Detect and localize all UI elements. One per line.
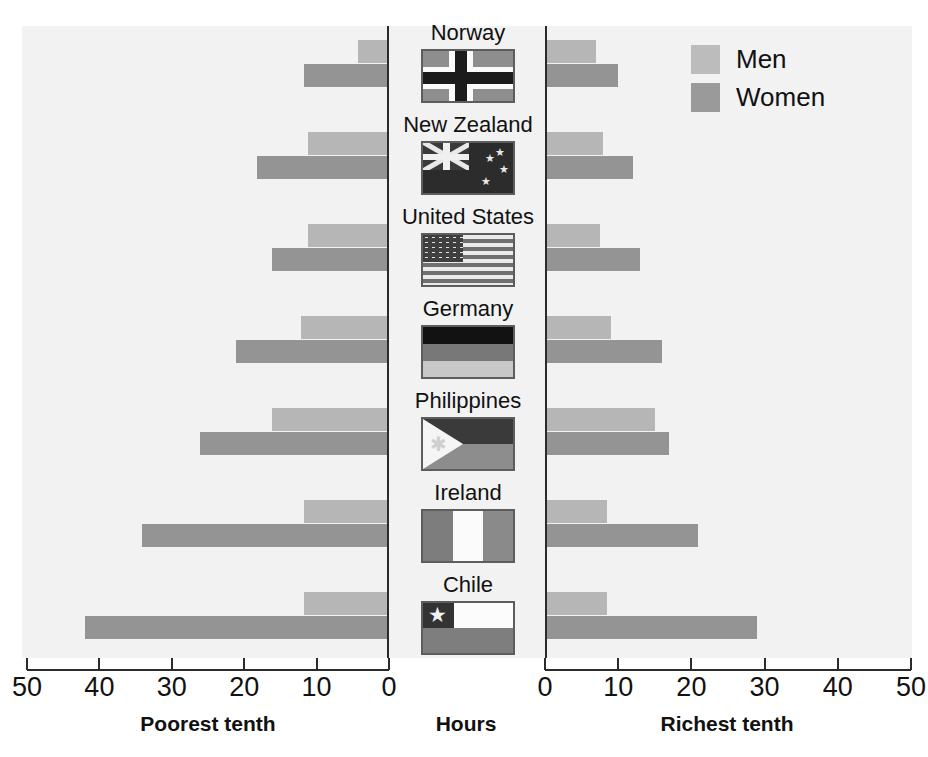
axis-tick xyxy=(98,658,100,670)
country-label: Chile xyxy=(395,572,541,598)
country-row-united-states: United States xyxy=(395,204,541,287)
legend: MenWomen xyxy=(691,40,825,116)
country-row-norway: Norway xyxy=(395,20,541,103)
country-row-germany: Germany xyxy=(395,296,541,379)
axis-tick xyxy=(764,658,766,670)
axis-tick-label: 20 xyxy=(229,672,259,703)
country-label: Philippines xyxy=(395,388,541,414)
legend-label-men: Men xyxy=(736,44,787,75)
axis-title-hours: Hours xyxy=(436,712,497,736)
bar-ireland-men xyxy=(545,500,607,523)
axis-title-richest: Richest tenth xyxy=(660,712,793,736)
bar-germany-men xyxy=(301,316,387,339)
country-label: United States xyxy=(395,204,541,230)
axis-tick-label: 0 xyxy=(537,672,552,703)
country-label: Germany xyxy=(395,296,541,322)
country-label: Norway xyxy=(395,20,541,46)
panel-poorest-tenth xyxy=(27,26,387,658)
bar-norway-women xyxy=(545,64,618,87)
axis-tick xyxy=(617,658,619,670)
flag-germany-icon xyxy=(421,325,515,379)
bar-united-states-men xyxy=(545,224,600,247)
bar-philippines-women xyxy=(200,432,387,455)
axis-tick-label: 40 xyxy=(823,672,853,703)
country-column: NorwayNew Zealand★★★★United StatesGerman… xyxy=(395,26,541,658)
axis-tick xyxy=(316,658,318,670)
bar-germany-women xyxy=(236,340,387,363)
axis-tick xyxy=(690,658,692,670)
bar-germany-men xyxy=(545,316,611,339)
legend-swatch-women xyxy=(691,83,720,112)
bar-chile-men xyxy=(304,592,387,615)
left-bars-layer xyxy=(27,26,387,658)
legend-swatch-men xyxy=(691,45,720,74)
country-row-philippines: Philippines✱ xyxy=(395,388,541,471)
flag-chile-icon: ★ xyxy=(421,601,515,655)
bar-new-zealand-men xyxy=(545,132,603,155)
chart-figure: NorwayNew Zealand★★★★United StatesGerman… xyxy=(0,0,928,757)
legend-label-women: Women xyxy=(736,82,825,113)
axis-title-poorest: Poorest tenth xyxy=(140,712,275,736)
bar-new-zealand-men xyxy=(308,132,387,155)
bar-chile-women xyxy=(85,616,387,639)
flag-norway-icon xyxy=(421,49,515,103)
bar-germany-women xyxy=(545,340,662,363)
panel-richest-tenth xyxy=(545,26,910,658)
bar-ireland-women xyxy=(142,524,387,547)
axis-tick xyxy=(26,658,28,670)
bar-new-zealand-women xyxy=(545,156,633,179)
flag-united-states-icon xyxy=(421,233,515,287)
axis-tick-label: 40 xyxy=(84,672,114,703)
bar-ireland-men xyxy=(304,500,387,523)
bar-united-states-women xyxy=(272,248,387,271)
country-row-chile: Chile★ xyxy=(395,572,541,655)
flag-philippines-icon: ✱ xyxy=(421,417,515,471)
bar-united-states-men xyxy=(308,224,387,247)
bar-norway-men xyxy=(545,40,596,63)
axis-tick xyxy=(388,658,390,670)
bar-philippines-men xyxy=(272,408,387,431)
axis-tick xyxy=(171,658,173,670)
bar-philippines-women xyxy=(545,432,669,455)
flag-new-zealand-icon: ★★★★ xyxy=(421,141,515,195)
bar-norway-men xyxy=(358,40,387,63)
axis-tick-label: 30 xyxy=(157,672,187,703)
bar-united-states-women xyxy=(545,248,640,271)
axis-tick-label: 0 xyxy=(381,672,396,703)
right-axis-spine xyxy=(545,26,547,658)
right-bars-layer xyxy=(545,26,910,658)
flag-ireland-icon xyxy=(421,509,515,563)
axis-tick xyxy=(544,658,546,670)
axis-tick-label: 50 xyxy=(12,672,42,703)
country-label: Ireland xyxy=(395,480,541,506)
axis-tick-label: 10 xyxy=(603,672,633,703)
bar-chile-women xyxy=(545,616,757,639)
x-axis-left: 50403020100 xyxy=(27,658,389,671)
bar-new-zealand-women xyxy=(257,156,387,179)
axis-tick-label: 20 xyxy=(676,672,706,703)
country-row-new-zealand: New Zealand★★★★ xyxy=(395,112,541,195)
bar-philippines-men xyxy=(545,408,655,431)
axis-tick-label: 10 xyxy=(302,672,332,703)
axis-rule xyxy=(545,669,911,671)
bar-chile-men xyxy=(545,592,607,615)
axis-tick xyxy=(910,658,912,670)
x-axis-right: 01020304050 xyxy=(545,658,911,671)
country-label: New Zealand xyxy=(395,112,541,138)
left-axis-spine xyxy=(387,26,389,658)
bar-ireland-women xyxy=(545,524,698,547)
axis-rule xyxy=(27,669,389,671)
country-row-ireland: Ireland xyxy=(395,480,541,563)
axis-tick xyxy=(837,658,839,670)
axis-tick-label: 30 xyxy=(750,672,780,703)
axis-tick xyxy=(243,658,245,670)
axis-tick-label: 50 xyxy=(896,672,926,703)
legend-item-women: Women xyxy=(691,78,825,116)
bar-norway-women xyxy=(304,64,387,87)
legend-item-men: Men xyxy=(691,40,825,78)
